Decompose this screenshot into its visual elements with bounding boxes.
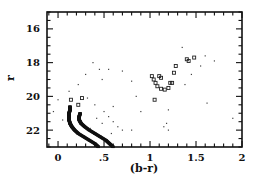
x-tick-label: .5	[99, 152, 109, 163]
color-magnitude-plot: 0.511.52 16182022 (b-r) r	[0, 0, 258, 182]
plot-frame	[47, 12, 242, 147]
x-tick-label: 2	[239, 152, 246, 163]
y-axis-label: r	[4, 75, 17, 81]
series-giant-branch-clump	[69, 56, 195, 106]
y-tick-labels: 16182022	[26, 23, 40, 135]
y-tick-label: 22	[26, 125, 40, 136]
x-tick-label: 0	[55, 152, 62, 163]
data-points	[53, 47, 234, 148]
x-tick-label: 1.5	[187, 152, 204, 163]
axis-ticks	[47, 12, 242, 147]
y-tick-label: 16	[26, 23, 40, 34]
y-tick-label: 18	[26, 57, 40, 68]
y-tick-label: 20	[26, 91, 40, 102]
x-axis-label: (b-r)	[130, 162, 158, 175]
